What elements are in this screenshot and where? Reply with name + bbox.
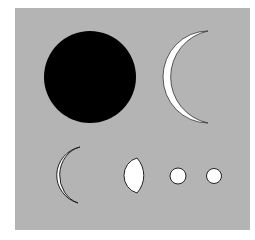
phases-figure [0, 0, 255, 240]
full-disc-small-2 [207, 169, 222, 184]
crescent-medium [57, 147, 80, 203]
half-phase-gibbous [124, 158, 144, 193]
thin-crescent-large [163, 31, 208, 123]
full-disc-small-1 [170, 168, 186, 184]
full-dark-disc [44, 31, 136, 123]
